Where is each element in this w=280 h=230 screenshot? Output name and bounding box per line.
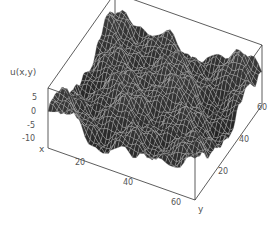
z-tick-5: 5 <box>32 94 37 102</box>
z-axis-label: u(x,y) <box>10 68 36 77</box>
x-tick-40: 40 <box>123 179 133 187</box>
z-tick-neg10: -10 <box>22 135 35 143</box>
y-axis-label: y <box>198 205 203 214</box>
surface-plot <box>0 0 280 230</box>
y-tick-40: 40 <box>239 136 249 144</box>
x-tick-60: 60 <box>171 199 181 207</box>
x-tick-20: 20 <box>75 159 85 167</box>
z-tick-neg5: -5 <box>27 122 35 130</box>
x-axis-label: x <box>39 145 44 154</box>
y-tick-60: 60 <box>257 104 267 112</box>
z-tick-0: 0 <box>31 108 36 116</box>
y-tick-20: 20 <box>218 168 228 176</box>
